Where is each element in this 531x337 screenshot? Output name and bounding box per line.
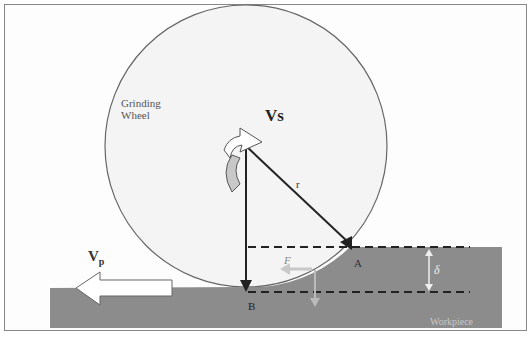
radius-label: r — [296, 178, 300, 190]
workpiece-label: Workpiece — [430, 316, 473, 327]
depth-label: δ — [434, 263, 440, 278]
feed-velocity-subscript: p — [99, 256, 105, 267]
feed-velocity-main: V — [88, 248, 99, 264]
wheel-label: Grinding Wheel — [121, 97, 161, 121]
wheel-speed-label: Vs — [265, 106, 284, 126]
wheel-label-line2: Wheel — [121, 109, 161, 121]
feed-velocity-label: Vp — [88, 248, 104, 267]
point-a-label: A — [354, 257, 362, 269]
point-b-label: B — [248, 300, 255, 312]
grinding-diagram — [0, 0, 531, 337]
wheel-label-line1: Grinding — [121, 97, 161, 109]
force-label: F — [284, 254, 291, 266]
